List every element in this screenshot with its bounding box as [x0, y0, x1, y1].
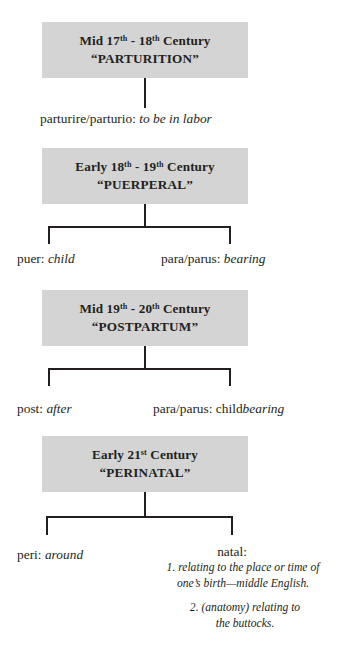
root-gloss-peri: peri: around — [17, 546, 83, 563]
root-term: parturire/parturio: — [40, 111, 139, 126]
root-gloss-puer: puer: child — [17, 250, 75, 267]
era-years-parturition: Mid 17th - 18th Century — [79, 32, 210, 50]
natal-definition-2-line-2: the buttocks. — [152, 616, 338, 632]
natal-definition-2: 2. (anatomy) relating to the buttocks. — [152, 600, 338, 631]
era-ordinal-suffix-2: th — [156, 160, 163, 169]
era-mid: - 20 — [127, 301, 152, 316]
era-suffix: Century — [160, 301, 211, 316]
natal-definition-1: 1. relating to the place or time of one’… — [144, 560, 342, 591]
era-term-perinatal: “PERINATAL” — [99, 464, 190, 482]
connector-hbar-perinatal — [46, 516, 233, 518]
natal-definition-1-line-2: one’s birth—middle English. — [144, 576, 342, 592]
root-meaning: around — [45, 547, 83, 562]
root-term: para/parus: child — [153, 401, 243, 416]
era-term-puerperal: “PUERPERAL” — [97, 176, 193, 194]
root-term: para/parus: — [161, 251, 224, 266]
root-meaning: after — [46, 401, 71, 416]
era-prefix: Early 21 — [92, 447, 141, 462]
era-ordinal-suffix-1: th — [124, 160, 131, 169]
era-ordinal-suffix-2: th — [152, 34, 159, 43]
era-ordinal-suffix-2: th — [152, 302, 159, 311]
root-term: puer: — [17, 251, 48, 266]
connector-drop-left-puerperal — [48, 226, 50, 244]
era-box-postpartum: Mid 19th - 20th Century “POSTPARTUM” — [42, 290, 248, 346]
root-meaning: child — [48, 251, 75, 266]
era-years-postpartum: Mid 19th - 20th Century — [79, 300, 210, 318]
connector-hbar-puerperal — [48, 226, 231, 228]
connector-hbar-postpartum — [48, 368, 231, 370]
era-years-perinatal: Early 21st Century — [92, 446, 198, 464]
era-suffix: Century — [147, 447, 198, 462]
era-term-postpartum: “POSTPARTUM” — [92, 318, 198, 336]
root-term: peri: — [17, 547, 45, 562]
root-gloss-post: post: after — [17, 400, 72, 417]
root-gloss-para-childbearing: para/parus: childbearing — [153, 400, 284, 417]
root-term: post: — [17, 401, 46, 416]
root-gloss-parturire: parturire/parturio: to be in labor — [40, 110, 212, 127]
connector-stem-parturition — [144, 78, 146, 108]
era-prefix: Mid 19 — [79, 301, 120, 316]
connector-stem-postpartum — [144, 346, 146, 369]
connector-drop-right-perinatal — [231, 516, 233, 535]
era-years-puerperal: Early 18th - 19th Century — [75, 158, 214, 176]
era-suffix: Century — [164, 159, 215, 174]
era-mid: - 19 — [132, 159, 157, 174]
etymology-flow-diagram: Mid 17th - 18th Century “PARTURITION” pa… — [0, 0, 344, 650]
natal-definition-1-line-1: 1. relating to the place or time of — [144, 560, 342, 576]
connector-drop-right-postpartum — [229, 368, 231, 386]
root-meaning: bearing — [224, 251, 266, 266]
era-box-parturition: Mid 17th - 18th Century “PARTURITION” — [42, 22, 248, 78]
connector-stem-puerperal — [144, 204, 146, 227]
root-gloss-para-bearing: para/parus: bearing — [161, 250, 266, 267]
root-meaning: to be in labor — [139, 111, 212, 126]
era-suffix: Century — [160, 33, 211, 48]
natal-definition-2-line-1: 2. (anatomy) relating to — [152, 600, 338, 616]
root-gloss-natal: natal: — [196, 543, 268, 560]
era-prefix: Early 18 — [75, 159, 124, 174]
root-meaning: bearing — [243, 401, 285, 416]
connector-stem-perinatal — [144, 492, 146, 517]
connector-drop-left-perinatal — [46, 516, 48, 535]
era-box-perinatal: Early 21st Century “PERINATAL” — [42, 436, 248, 492]
connector-drop-left-postpartum — [48, 368, 50, 386]
era-mid: - 18 — [127, 33, 152, 48]
era-term-parturition: “PARTURITION” — [91, 50, 199, 68]
era-prefix: Mid 17 — [79, 33, 120, 48]
connector-drop-right-puerperal — [229, 226, 231, 244]
era-box-puerperal: Early 18th - 19th Century “PUERPERAL” — [42, 148, 248, 204]
